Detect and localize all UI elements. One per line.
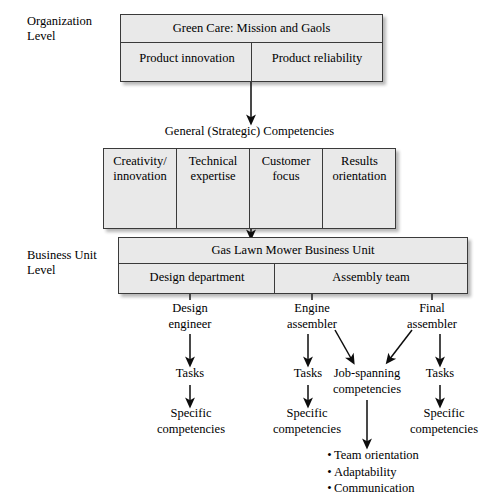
role-design-engineer: Design engineer: [152, 301, 228, 332]
bullet-icon: •: [325, 447, 334, 464]
organization-cell-product-innovation: Product innovation: [123, 51, 251, 66]
specific-competencies-1-line2: competencies: [152, 422, 230, 438]
business-unit-cell-assembly-team: Assembly team: [276, 270, 466, 285]
general-competencies-title: General (Strategic) Competencies: [103, 124, 396, 139]
competency-cell-creativity-innovation: Creativity/ innovation: [105, 154, 175, 184]
role-engine-assembler: Engine assembler: [272, 301, 352, 332]
competency-cell-0-line2: innovation: [105, 169, 175, 184]
competencies-divider-1: [176, 149, 177, 228]
general-competencies-box: Creativity/ innovation Technical experti…: [103, 148, 396, 229]
job-spanning-competency-list: •Team orientation •Adaptability •Communi…: [325, 447, 501, 497]
organization-box: Green Care: Mission and Gaols Product in…: [120, 14, 383, 82]
business-unit-box-title: Gas Lawn Mower Business Unit: [119, 243, 467, 257]
job-spanning-competencies-node: Job-spanning competencies: [321, 366, 413, 397]
diagram-canvas: Organization Level Business Unit Level G…: [0, 0, 501, 501]
organization-box-vertical-divider: [251, 42, 252, 81]
job-spanning-line1: Job-spanning: [321, 366, 413, 382]
list-item-label: Communication: [334, 481, 415, 495]
specific-competencies-2-line1: Specific: [268, 406, 346, 422]
bullet-icon: •: [325, 464, 334, 481]
competency-cell-1-line2: expertise: [178, 169, 248, 184]
list-item: •Team orientation: [325, 447, 501, 464]
competency-cell-3-line2: orientation: [324, 169, 395, 184]
competencies-divider-3: [322, 149, 323, 228]
arrow-engine-assembler-to-job-spanning: [335, 330, 352, 360]
competency-cell-customer-focus: Customer focus: [251, 154, 321, 184]
role-engine-assembler-line1: Engine: [272, 301, 352, 317]
role-engine-assembler-line2: assembler: [272, 317, 352, 333]
level-label-organization-line2: Level: [27, 29, 92, 44]
role-design-engineer-line1: Design: [152, 301, 228, 317]
competency-cell-0-line1: Creativity/: [105, 154, 175, 169]
list-item-label: Team orientation: [334, 448, 419, 462]
role-final-assembler-line1: Final: [394, 301, 470, 317]
role-final-assembler: Final assembler: [394, 301, 470, 332]
business-unit-cell-design-department: Design department: [121, 270, 273, 285]
bullet-icon: •: [325, 480, 334, 497]
business-unit-horizontal-divider: [119, 263, 467, 264]
business-unit-vertical-divider: [274, 263, 275, 293]
competency-cell-1-line1: Technical: [178, 154, 248, 169]
business-unit-box: Gas Lawn Mower Business Unit Design depa…: [118, 237, 468, 294]
role-design-engineer-line2: engineer: [152, 317, 228, 333]
specific-competencies-3-line1: Specific: [405, 406, 483, 422]
specific-competencies-design-engineer: Specific competencies: [152, 406, 230, 437]
competency-cell-technical-expertise: Technical expertise: [178, 154, 248, 184]
competency-cell-results-orientation: Results orientation: [324, 154, 395, 184]
competency-cell-2-line1: Customer: [251, 154, 321, 169]
specific-competencies-3-line2: competencies: [405, 422, 483, 438]
tasks-node-final-assembler: Tasks: [415, 366, 465, 382]
list-item: •Communication: [325, 480, 501, 497]
arrow-final-assembler-to-job-spanning: [389, 330, 412, 360]
job-spanning-line2: competencies: [321, 382, 413, 398]
level-label-business-unit-line1: Business Unit: [27, 248, 97, 263]
specific-competencies-1-line1: Specific: [152, 406, 230, 422]
level-label-business-unit: Business Unit Level: [27, 248, 97, 278]
competency-cell-3-line1: Results: [324, 154, 395, 169]
specific-competencies-final-assembler: Specific competencies: [405, 406, 483, 437]
level-label-business-unit-line2: Level: [27, 263, 97, 278]
organization-box-title: Green Care: Mission and Gaols: [121, 21, 382, 35]
tasks-node-design-engineer: Tasks: [162, 366, 218, 382]
list-item: •Adaptability: [325, 464, 501, 481]
specific-competencies-2-line2: competencies: [268, 422, 346, 438]
competencies-divider-2: [249, 149, 250, 228]
competency-cell-2-line2: focus: [251, 169, 321, 184]
level-label-organization: Organization Level: [27, 14, 92, 44]
role-final-assembler-line2: assembler: [394, 317, 470, 333]
level-label-organization-line1: Organization: [27, 14, 92, 29]
organization-cell-product-reliability: Product reliability: [253, 51, 381, 66]
specific-competencies-engine-assembler: Specific competencies: [268, 406, 346, 437]
list-item-label: Adaptability: [334, 465, 397, 479]
